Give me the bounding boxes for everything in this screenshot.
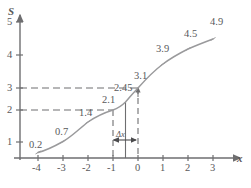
y-tick-label-5: 5	[7, 17, 12, 28]
point-label-1-4: 1.4	[79, 108, 92, 119]
x-tick-label-neg4: -4	[32, 163, 41, 174]
delta-x-label: Δx	[116, 130, 125, 139]
chart-canvas	[0, 0, 251, 188]
point-label-3-9: 3.9	[156, 44, 169, 55]
y-tick-label-1: 1	[7, 137, 12, 148]
point-label-3-1: 3.1	[134, 71, 147, 82]
x-tick-label-3: 3	[210, 163, 215, 174]
x-tick-label-neg3: -3	[57, 163, 66, 174]
chart-figure: S x 5 4 3 2 1 -4 -3 -2 -1 0 1 2 3 0.2 0.…	[0, 0, 251, 188]
y-tick-label-4: 4	[7, 50, 12, 61]
x-tick-label-2: 2	[185, 163, 190, 174]
point-label-2-45: 2.45	[114, 83, 132, 94]
x-tick-label-0: 0	[135, 163, 140, 174]
x-axis-title: x	[237, 153, 243, 164]
point-label-4-5: 4.5	[184, 29, 197, 40]
x-tick-label-neg2: -2	[82, 163, 91, 174]
point-label-2-1: 2.1	[102, 95, 115, 106]
y-tick-label-2: 2	[7, 105, 12, 116]
x-tick-label-neg1: -1	[107, 163, 116, 174]
y-tick-label-3: 3	[7, 83, 12, 94]
point-label-4-9: 4.9	[210, 17, 223, 28]
point-label-0-7: 0.7	[55, 127, 68, 138]
y-axis	[16, 15, 23, 160]
x-axis	[14, 155, 240, 161]
x-tick-label-1: 1	[160, 163, 165, 174]
point-label-0-2: 0.2	[29, 140, 42, 151]
